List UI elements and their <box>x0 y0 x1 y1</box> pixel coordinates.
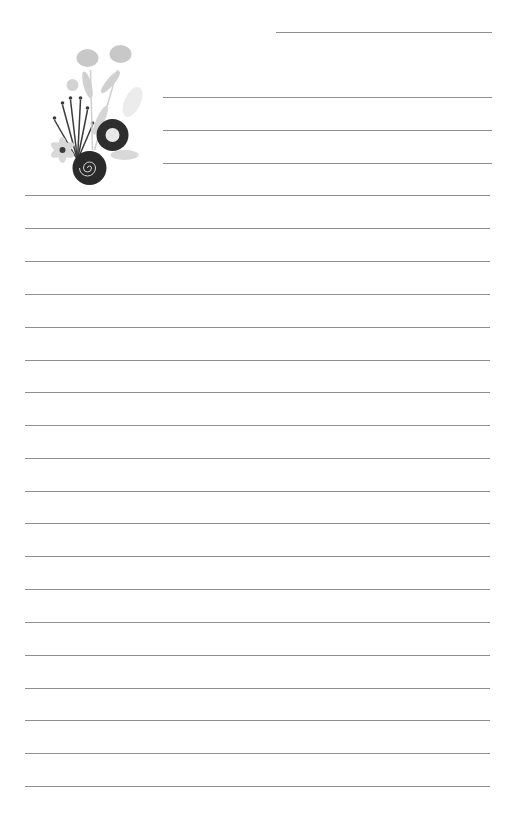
ruled-line <box>25 688 490 689</box>
floral-bouquet-icon <box>30 40 145 190</box>
ruled-line <box>25 327 490 328</box>
ruled-line-partial <box>163 97 492 98</box>
ruled-line <box>25 556 490 557</box>
ruled-line <box>25 786 490 787</box>
ruled-line-partial <box>163 163 492 164</box>
ruled-line <box>25 622 490 623</box>
ruled-line <box>25 458 490 459</box>
ruled-line <box>25 589 490 590</box>
ruled-line <box>25 261 490 262</box>
ruled-line-partial <box>163 130 492 131</box>
ruled-line <box>25 294 490 295</box>
ruled-line <box>25 360 490 361</box>
ruled-line <box>25 655 490 656</box>
ruled-line <box>25 720 490 721</box>
ruled-line <box>25 392 490 393</box>
ruled-line <box>25 228 490 229</box>
ruled-line <box>25 425 490 426</box>
ruled-line-top <box>276 32 492 33</box>
ruled-line <box>25 753 490 754</box>
ruled-line <box>25 195 490 196</box>
ruled-line <box>25 523 490 524</box>
ruled-line <box>25 491 490 492</box>
